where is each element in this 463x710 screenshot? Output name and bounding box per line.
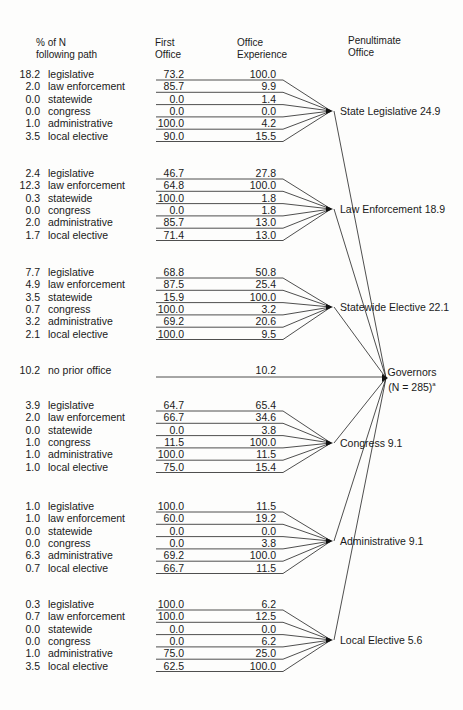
governors-node: Governors (N = 285)a [372,366,452,393]
flow-lines [0,0,463,710]
governors-n: (N = 285)a [372,378,452,393]
governors-label: Governors [372,366,452,378]
